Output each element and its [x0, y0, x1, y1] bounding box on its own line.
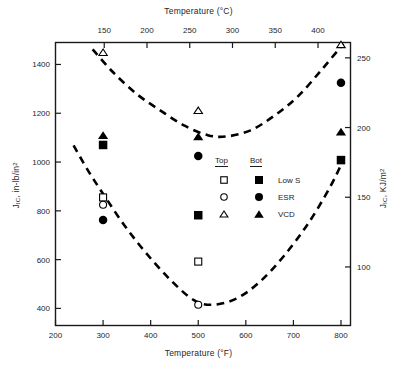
data-point-esr-bot: [337, 79, 346, 88]
x-tick-800: 800: [334, 331, 347, 340]
x-tick-400: 400: [144, 331, 157, 340]
data-point-esr-top: [195, 301, 202, 308]
plot-area: [0, 0, 397, 371]
right-axis-title: JIC, KJ/m2: [378, 128, 389, 248]
x2-tick-400: 400: [311, 26, 324, 35]
x-tick-200: 200: [49, 331, 62, 340]
axis-ticks: [56, 43, 351, 326]
lower-dashed-curve: [74, 145, 343, 304]
y2-tick-150: 150: [357, 193, 393, 202]
y-tick-400: 400: [14, 304, 50, 313]
data-markers: [98, 41, 346, 308]
y-tick-1000: 1000: [14, 158, 50, 167]
data-point-vcd-bot: [98, 131, 108, 139]
legend-header-top: Top: [215, 156, 228, 167]
data-point-esr-top: [100, 201, 107, 208]
x-tick-500: 500: [192, 331, 205, 340]
x2-tick-300: 300: [226, 26, 239, 35]
legend-label-vcd: VCD: [278, 210, 295, 219]
x2-tick-150: 150: [98, 26, 111, 35]
y2-tick-250: 250: [357, 53, 393, 62]
legend-header-bot: Bot: [250, 156, 262, 167]
x-tick-700: 700: [287, 331, 300, 340]
data-point-vcd-bot: [336, 128, 346, 136]
data-point-low-s-bot: [194, 211, 203, 220]
data-point-low-s-bot: [99, 141, 108, 150]
data-point-vcd-top: [194, 107, 202, 113]
top-axis-title: Temperature (°C): [0, 6, 397, 16]
data-point-esr-bot: [194, 152, 203, 161]
bottom-axis-title: Temperature (°F): [0, 348, 397, 358]
data-point-low-s-top: [195, 258, 202, 265]
data-point-low-s-bot: [337, 156, 346, 165]
chart-figure: Temperature (°C) Temperature (°F) JIC, i…: [0, 0, 397, 371]
legend-label-esr: ESR: [278, 193, 294, 202]
trend-curves: [74, 44, 344, 305]
x2-tick-350: 350: [269, 26, 282, 35]
y-tick-1200: 1200: [14, 109, 50, 118]
legend-label-low-s: Low S: [278, 176, 300, 185]
left-axis-title: JIC, in-lb/in2: [11, 125, 22, 245]
upper-dashed-curve: [93, 44, 344, 137]
y-tick-800: 800: [14, 206, 50, 215]
data-point-low-s-top: [100, 194, 107, 201]
x2-tick-200: 200: [140, 26, 153, 35]
data-point-esr-bot: [99, 216, 108, 225]
data-point-vcd-top: [99, 49, 107, 55]
x2-tick-250: 250: [183, 26, 196, 35]
y2-tick-200: 200: [357, 123, 393, 132]
y2-tick-100: 100: [357, 262, 393, 271]
x-tick-300: 300: [96, 331, 109, 340]
x-tick-600: 600: [239, 331, 252, 340]
plot-frame: [56, 43, 351, 326]
y-tick-600: 600: [14, 255, 50, 264]
y-tick-1400: 1400: [14, 60, 50, 69]
data-point-vcd-bot: [193, 133, 203, 141]
